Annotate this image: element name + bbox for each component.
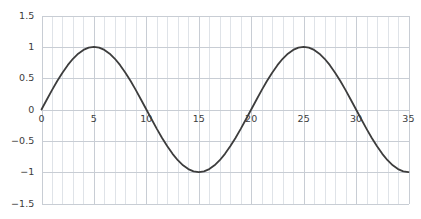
- y-tick-label: −1: [20, 167, 34, 177]
- x-tick-label: 10: [131, 114, 161, 124]
- x-tick-label: 5: [79, 114, 109, 124]
- y-tick-label: 1: [28, 42, 34, 52]
- x-tick-label: 15: [184, 114, 214, 124]
- y-tick-label: 1.5: [19, 11, 34, 21]
- line-chart-plot: [0, 0, 421, 219]
- chart-container: −1.5−1−0.500.511.5 05101520253035: [0, 0, 421, 219]
- x-tick-label: 0: [27, 114, 57, 124]
- sine-curve-line: [42, 47, 409, 172]
- x-tick-label: 20: [236, 114, 266, 124]
- x-tick-label: 30: [341, 114, 371, 124]
- x-tick-label: 35: [394, 114, 421, 124]
- y-tick-label: −0.5: [11, 136, 34, 146]
- x-tick-label: 25: [289, 114, 319, 124]
- minor-vertical-gridlines: [43, 16, 410, 204]
- y-tick-label: −1.5: [11, 199, 34, 209]
- major-vertical-gridlines: [43, 16, 410, 204]
- horizontal-gridlines: [42, 17, 409, 205]
- y-tick-label: 0.5: [19, 73, 34, 83]
